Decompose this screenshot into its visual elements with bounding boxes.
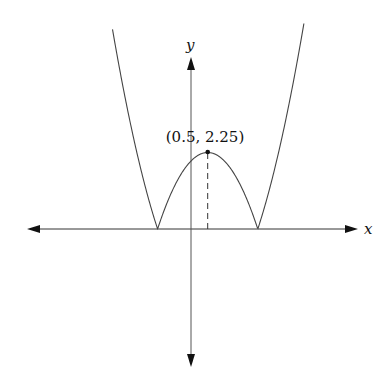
y-axis-top-arrow-icon [187, 57, 195, 70]
peak-label: (0.5, 2.25) [166, 128, 245, 146]
x-axis-left-arrow-icon [27, 225, 40, 233]
x-axis-label: x [364, 220, 373, 238]
x-axis-right-arrow-icon [345, 225, 358, 233]
y-axis-bottom-arrow-icon [187, 354, 195, 367]
graph: x y (0.5, 2.25) [0, 0, 389, 383]
y-axis-label: y [185, 36, 195, 54]
function-curve [113, 23, 304, 228]
peak-point [205, 150, 210, 155]
